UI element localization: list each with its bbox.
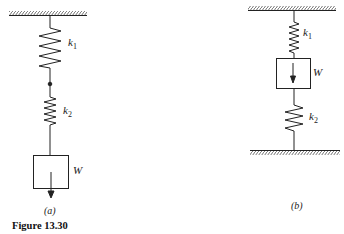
panel-b bbox=[248, 6, 340, 155]
panel-label-b: (b) bbox=[291, 200, 303, 211]
spring-label-k1-a: k1 bbox=[68, 36, 77, 51]
floor-hatch-b bbox=[250, 151, 340, 155]
figure-caption: Figure 13.30 bbox=[12, 220, 68, 231]
spring-k2-a bbox=[44, 97, 56, 125]
spring-k1-a bbox=[39, 28, 61, 68]
panel-label-a: (a) bbox=[44, 205, 56, 216]
junction-dot-a bbox=[48, 82, 52, 86]
spring-k2-b bbox=[285, 105, 303, 131]
spring-k1-b bbox=[289, 22, 299, 53]
ceiling-hatch-b bbox=[248, 6, 336, 10]
mass-label-b: W bbox=[313, 66, 322, 78]
ceiling-hatch-a bbox=[9, 11, 87, 15]
spring-label-k1-b: k1 bbox=[303, 26, 312, 41]
spring-label-k2-b: k2 bbox=[309, 110, 318, 125]
mass-label-a: W bbox=[73, 164, 82, 176]
spring-diagram bbox=[0, 0, 344, 234]
spring-label-k2-a: k2 bbox=[63, 104, 72, 119]
